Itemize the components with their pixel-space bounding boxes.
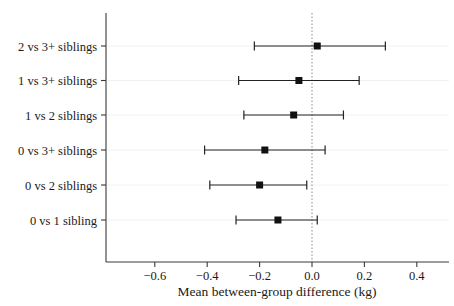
x-axis-tick-label: −0.4	[196, 269, 219, 283]
point-estimate-marker	[274, 217, 281, 224]
forest-plot-figure: 2 vs 3+ siblings1 vs 3+ siblings1 vs 2 s…	[0, 0, 454, 306]
point-estimate-marker	[295, 77, 302, 84]
x-axis-tick-label: −0.6	[143, 269, 166, 283]
y-axis-ticks	[101, 46, 106, 220]
y-axis-tick-label: 1 vs 3+ siblings	[18, 74, 97, 88]
x-axis-tick-label: −0.2	[248, 269, 271, 283]
x-axis-title: Mean between-group difference (kg)	[178, 284, 377, 299]
y-axis-tick-label: 0 vs 1 sibling	[30, 214, 98, 228]
row-guide-lines	[107, 46, 449, 220]
x-axis-tick-label: 0.2	[357, 269, 373, 283]
point-estimate-marker	[256, 182, 263, 189]
x-axis-tick-label: 0.0	[304, 269, 320, 283]
forest-plot-canvas: 2 vs 3+ siblings1 vs 3+ siblings1 vs 2 s…	[0, 0, 454, 306]
x-axis-tick-labels: −0.6−0.4−0.20.00.20.4	[143, 269, 425, 283]
x-axis-tick-label: 0.4	[409, 269, 425, 283]
point-estimate-marker	[314, 43, 321, 50]
y-axis-tick-label: 0 vs 3+ siblings	[18, 144, 97, 158]
x-axis-ticks	[155, 262, 417, 267]
y-axis-tick-label: 0 vs 2 siblings	[25, 179, 97, 193]
point-estimate-layer	[256, 43, 321, 224]
y-axis-tick-label: 1 vs 2 siblings	[25, 109, 97, 123]
y-axis-tick-labels: 2 vs 3+ siblings1 vs 3+ siblings1 vs 2 s…	[18, 40, 98, 228]
point-estimate-marker	[261, 147, 268, 154]
confidence-interval-layer	[205, 42, 386, 225]
y-axis-tick-label: 2 vs 3+ siblings	[18, 40, 97, 54]
point-estimate-marker	[290, 112, 297, 119]
